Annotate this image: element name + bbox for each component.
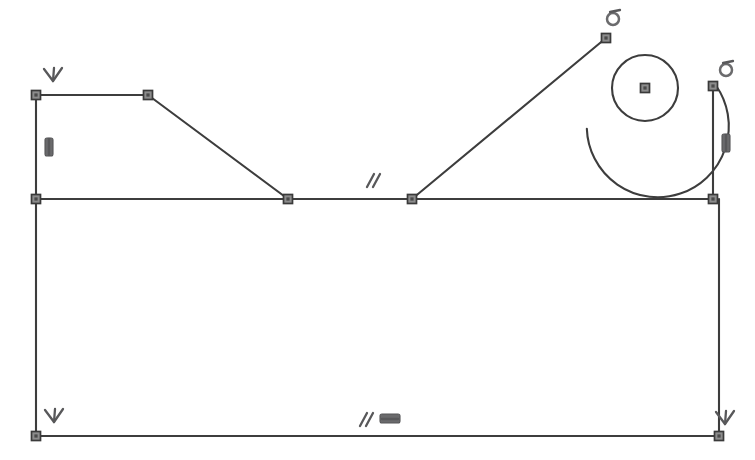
perpendicular-glyph-stem [53,68,54,81]
geometry-layer [36,38,729,436]
node-right-mid[interactable] [709,195,718,204]
sketch-drawing-surface[interactable] [0,0,755,460]
upper-right-diagonal-line[interactable] [412,38,606,199]
node-top-bend[interactable] [144,91,153,100]
tangent-glyph-line [723,61,733,63]
node-left-mid[interactable] [32,195,41,204]
node-marker-inner [711,84,714,87]
constraint-horizontal-bottom[interactable] [380,414,400,423]
node-marker-inner [711,197,714,200]
node-top-left[interactable] [32,91,41,100]
constraint-layer [44,10,734,426]
node-marker-inner [604,36,607,39]
node-mid-left-junction[interactable] [284,195,293,204]
constraint-parallel-middle[interactable] [367,174,380,187]
node-marker-inner [146,93,149,96]
node-marker-inner [643,86,646,89]
constraint-vertical-left[interactable] [45,138,53,156]
node-marker-inner [286,197,289,200]
node-bottom-left[interactable] [32,432,41,441]
tangent-glyph-circle [607,13,619,25]
node-marker-inner [34,434,37,437]
node-arc-end[interactable] [709,82,718,91]
constraint-tangent-arc-end[interactable] [720,61,733,76]
node-bottom-right[interactable] [715,432,724,441]
tangent-glyph-line [610,10,620,12]
constraint-tangent-arc-start[interactable] [607,10,620,25]
node-arc-start[interactable] [602,34,611,43]
top-right-fillet-arc[interactable] [587,86,729,198]
tangent-glyph-circle [720,64,732,76]
upper-left-diagonal-line[interactable] [148,95,288,199]
node-marker-inner [34,197,37,200]
perpendicular-glyph-stem [54,409,55,422]
constraint-perpendicular-top-left[interactable] [44,68,62,81]
perpendicular-glyph-stem [725,411,726,424]
constraint-vertical-right[interactable] [722,134,730,152]
constraint-perpendicular-bottom-left[interactable] [45,409,63,422]
node-marker-inner [410,197,413,200]
cad-sketch-canvas[interactable] [0,0,755,460]
constraint-parallel-bottom[interactable] [360,413,373,426]
node-mid-right-junction[interactable] [408,195,417,204]
node-marker-inner [34,93,37,96]
node-circle-center[interactable] [641,84,650,93]
node-marker-inner [717,434,720,437]
